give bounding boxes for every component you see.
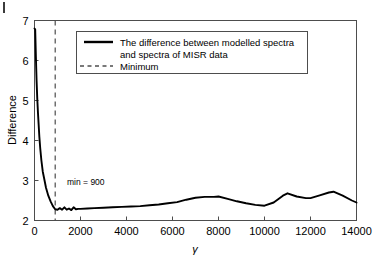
legend: The difference between modelled spectra … bbox=[77, 32, 308, 74]
x-tick-label: 10000 bbox=[249, 225, 280, 237]
corner-artifact-mark bbox=[3, 2, 5, 13]
y-tick-label: 6 bbox=[22, 55, 28, 67]
x-axis-ticks bbox=[35, 217, 357, 221]
chart-svg: 02000400060008000100001200014000 234567 … bbox=[0, 0, 374, 261]
y-axis-label: Difference bbox=[6, 95, 18, 145]
y-tick-label: 5 bbox=[22, 95, 28, 107]
y-axis-tick-labels: 234567 bbox=[22, 15, 28, 227]
x-axis-label: γ bbox=[192, 243, 199, 255]
y-tick-label: 7 bbox=[22, 15, 28, 27]
legend-label-difference-line2: and spectra of MISR data bbox=[120, 49, 228, 60]
legend-label-difference-line1: The difference between modelled spectra bbox=[120, 37, 295, 48]
x-tick-label: 6000 bbox=[160, 225, 184, 237]
x-tick-label: 8000 bbox=[206, 225, 230, 237]
y-tick-label: 4 bbox=[22, 135, 28, 147]
x-tick-label: 2000 bbox=[68, 225, 92, 237]
chart-figure: 02000400060008000100001200014000 234567 … bbox=[0, 0, 374, 261]
x-tick-label: 14000 bbox=[341, 225, 372, 237]
x-tick-label: 0 bbox=[31, 225, 37, 237]
x-axis-tick-labels: 02000400060008000100001200014000 bbox=[31, 225, 371, 237]
minimum-annotation: min = 900 bbox=[67, 177, 105, 187]
x-tick-label: 12000 bbox=[295, 225, 326, 237]
y-tick-label: 2 bbox=[22, 215, 28, 227]
x-tick-label: 4000 bbox=[114, 225, 138, 237]
y-tick-label: 3 bbox=[22, 175, 28, 187]
legend-label-minimum: Minimum bbox=[120, 61, 159, 72]
